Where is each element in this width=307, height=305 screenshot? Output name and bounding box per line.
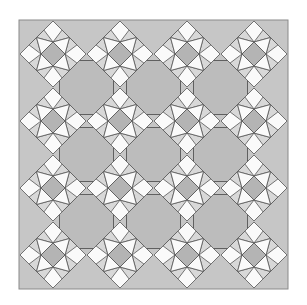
quilt-image	[0, 0, 307, 305]
